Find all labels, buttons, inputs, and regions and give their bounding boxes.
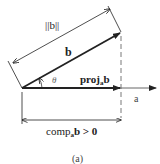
figure-caption: (a) [72,154,83,164]
proj-vector: b [103,73,109,85]
vector-b-label: b [65,46,72,58]
proj-label: projab [80,74,110,87]
axis-a-label: a [134,94,138,104]
angle-arc [39,78,42,88]
comp-tail: b > 0 [74,125,97,137]
theta-label: θ [52,76,56,85]
norm-b-label: ||b|| [45,20,59,31]
comp-text: comp [46,125,70,137]
proj-text: proj [80,73,100,85]
comp-label: compab > 0 [46,126,97,139]
comp-dimension [22,92,121,124]
